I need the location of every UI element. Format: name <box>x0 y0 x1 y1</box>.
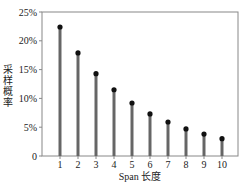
stem <box>75 50 80 156</box>
y-tick-label: 5% <box>24 122 37 133</box>
y-tick-label: 20% <box>19 35 37 46</box>
y-axis-label-char: 率 <box>3 96 13 108</box>
y-axis-label-char: 样 <box>3 74 13 86</box>
x-tick-label: 3 <box>94 159 99 170</box>
stem <box>93 71 98 156</box>
x-tick-label: 5 <box>130 159 135 170</box>
stem <box>111 87 116 156</box>
y-axis-ticks: 05%10%15%20%25% <box>19 7 42 162</box>
stem <box>129 100 134 156</box>
stem <box>147 111 152 156</box>
stem-marker <box>201 132 206 137</box>
plot-border <box>42 12 238 156</box>
stem-marker <box>183 126 188 131</box>
x-tick-label: 8 <box>184 159 189 170</box>
stem <box>165 119 170 156</box>
y-tick-label: 10% <box>19 93 37 104</box>
x-tick-label: 4 <box>112 159 117 170</box>
stem-marker <box>93 71 98 76</box>
stem-marker <box>219 136 224 141</box>
stem-marker <box>165 119 170 124</box>
x-tick-label: 9 <box>202 159 207 170</box>
x-axis-label: Span 长度 <box>119 170 162 182</box>
stem <box>183 126 188 156</box>
stem-marker <box>111 87 116 92</box>
stem-marker <box>129 100 134 105</box>
plot-frame <box>42 12 238 156</box>
x-tick-label: 1 <box>58 159 63 170</box>
y-axis-label-char: 采 <box>3 64 13 75</box>
x-tick-label: 2 <box>76 159 81 170</box>
stem <box>219 136 224 156</box>
stem-marker <box>57 24 62 29</box>
y-tick-label: 0 <box>32 151 37 162</box>
x-axis-ticks: 12345678910 <box>58 156 228 170</box>
stem-marker <box>75 50 80 55</box>
stem-chart: 05%10%15%20%25% 12345678910 Span 长度 采样概率 <box>0 0 244 189</box>
stem <box>57 24 62 156</box>
x-tick-label: 10 <box>217 159 227 170</box>
stem <box>201 132 206 156</box>
stem-marker <box>147 111 152 116</box>
x-tick-label: 7 <box>166 159 171 170</box>
stem-series <box>57 24 224 156</box>
x-tick-label: 6 <box>148 159 153 170</box>
y-axis-label: 采样概率 <box>3 64 13 108</box>
y-tick-label: 25% <box>19 7 37 18</box>
y-axis-label-char: 概 <box>3 85 13 97</box>
y-tick-label: 15% <box>19 64 37 75</box>
